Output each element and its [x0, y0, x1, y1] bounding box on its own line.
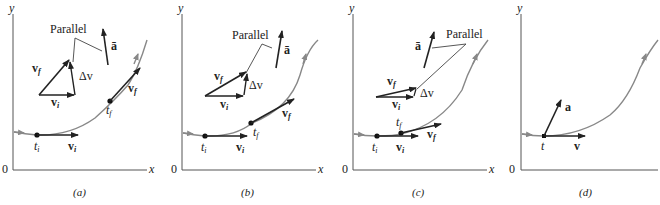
vi-label: vi: [236, 140, 245, 155]
caption-d: (d): [579, 186, 592, 199]
parallel-label: Parallel: [50, 22, 87, 36]
vector-avg-accel: [276, 31, 282, 68]
tf-label: tf: [253, 125, 260, 140]
triangle-vf-label: vf: [387, 74, 397, 89]
v-label: v: [574, 139, 580, 153]
parallel-leader: [73, 38, 102, 62]
caption-b: (b): [241, 186, 254, 199]
t-label: t: [541, 139, 545, 153]
triangle-vi-label: vi: [392, 97, 401, 112]
triangle-vi-label: vi: [220, 97, 229, 112]
ti-label: ti: [34, 139, 40, 154]
vf-label: vf: [128, 81, 138, 96]
vector-avg-accel: [103, 29, 108, 65]
ti-label: ti: [372, 140, 378, 155]
panel-c: y x 0 ti vi tf vf vf vi Δv Parallel ā (c…: [342, 1, 495, 199]
origin-label: 0: [171, 162, 177, 176]
origin-label: 0: [2, 162, 8, 176]
acceleration-figure: y x 0 ti vi tf vf vf vi Δv Parallel ā (a…: [0, 0, 660, 205]
vector-triangle: [39, 60, 75, 95]
tf-label: tf: [396, 115, 403, 130]
vi-label: vi: [68, 139, 77, 154]
vector-vf: [110, 68, 140, 101]
panel-d: y 0 a v t (d): [509, 1, 658, 199]
trajectory-path: [522, 40, 658, 136]
y-axis-label: y: [348, 1, 355, 15]
delta-v-label: Δv: [79, 69, 93, 83]
y-axis-label: y: [8, 1, 15, 15]
caption-a: (a): [73, 186, 86, 199]
panel-b: y x 0 ti vi tf vf vf vi Δv Parallel ā (b…: [171, 1, 324, 199]
vector-triangle: [376, 88, 416, 97]
vector-vf: [401, 124, 441, 133]
origin-label: 0: [509, 162, 515, 176]
avg-accel-label: ā: [284, 43, 290, 57]
x-axis-label: x: [317, 162, 324, 176]
vf-label: vf: [427, 127, 437, 142]
vector-a: [544, 100, 561, 136]
ti-label: ti: [201, 140, 207, 155]
triangle-vf-label: vf: [32, 61, 42, 76]
panel-a: y x 0 ti vi tf vf vf vi Δv Parallel ā (a…: [2, 1, 155, 199]
avg-accel-label: ā: [111, 39, 117, 53]
caption-c: (c): [412, 186, 425, 199]
x-axis-label: x: [488, 162, 495, 176]
y-axis-label: y: [177, 1, 184, 15]
axes: y 0: [509, 1, 658, 176]
x-axis-label: x: [148, 162, 155, 176]
vector-avg-accel: [424, 32, 434, 68]
triangle-vi-label: vi: [51, 95, 60, 110]
vi-label: vi: [396, 140, 405, 155]
parallel-leader: [246, 44, 272, 73]
origin-label: 0: [342, 162, 348, 176]
avg-accel-label: ā: [415, 39, 421, 53]
parallel-label: Parallel: [232, 28, 269, 42]
delta-v-label: Δv: [420, 86, 434, 100]
y-axis-label: y: [516, 1, 523, 15]
vf-label: vf: [282, 106, 292, 121]
parallel-label: Parallel: [446, 27, 483, 41]
vector-triangle: [205, 72, 247, 96]
a-label: a: [565, 100, 571, 114]
delta-v-label: Δv: [249, 78, 263, 92]
triangle-vf-label: vf: [214, 69, 224, 84]
